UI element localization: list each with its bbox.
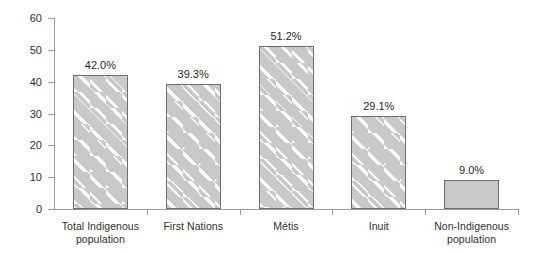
y-axis-tick [48,177,54,178]
x-axis-category-label: Inuit [332,220,425,233]
y-axis-tick [48,50,54,51]
y-axis-tick-label: 50 [2,45,42,56]
bar-value-label: 29.1% [349,101,409,112]
x-axis-tick [147,209,148,215]
y-axis-line [54,18,55,209]
x-axis-tick [240,209,241,215]
x-axis-category-label: Métis [240,220,333,233]
x-axis-category-label: Total Indigenouspopulation [54,220,147,246]
bar-value-label: 51.2% [256,31,316,42]
x-axis-category-label-line: Métis [240,220,333,233]
x-axis-tick [425,209,426,215]
x-axis-category-label: Non-Indigenouspopulation [425,220,518,246]
x-axis-tick [518,209,519,215]
bar-value-label: 39.3% [163,69,223,80]
y-axis-tick [48,145,54,146]
x-axis-category-label-line: population [425,233,518,246]
bar [73,75,128,209]
bar [166,84,221,209]
y-axis-tick-label: 10 [2,172,42,183]
y-axis-tick [48,82,54,83]
bar-value-label: 42.0% [70,60,130,71]
bar-chart: Per cent 0102030405060 42.0%39.3%51.2%29… [0,0,533,253]
x-axis-category-label-line: Non-Indigenous [425,220,518,233]
y-axis-tick [48,18,54,19]
bar [444,180,499,209]
y-axis-tick [48,114,54,115]
y-axis-tick-label: 60 [2,13,42,24]
y-axis-tick-label: 40 [2,77,42,88]
y-axis-tick-label: 0 [2,204,42,215]
x-axis-line [54,209,518,210]
bar [351,116,406,209]
y-axis-tick-label: 20 [2,140,42,151]
x-axis-category-label-line: First Nations [147,220,240,233]
x-axis-category-label: First Nations [147,220,240,233]
y-axis-tick-label: 30 [2,109,42,120]
x-axis-category-label-line: Inuit [332,220,425,233]
x-axis-category-label-line: Total Indigenous [54,220,147,233]
bar [259,46,314,209]
x-axis-tick [332,209,333,215]
x-axis-category-label-line: population [54,233,147,246]
bar-value-label: 9.0% [442,165,502,176]
